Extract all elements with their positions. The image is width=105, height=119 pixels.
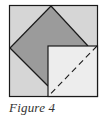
quilt-block-diagram	[0, 0, 105, 100]
figure-caption: Figure 4	[9, 100, 55, 116]
